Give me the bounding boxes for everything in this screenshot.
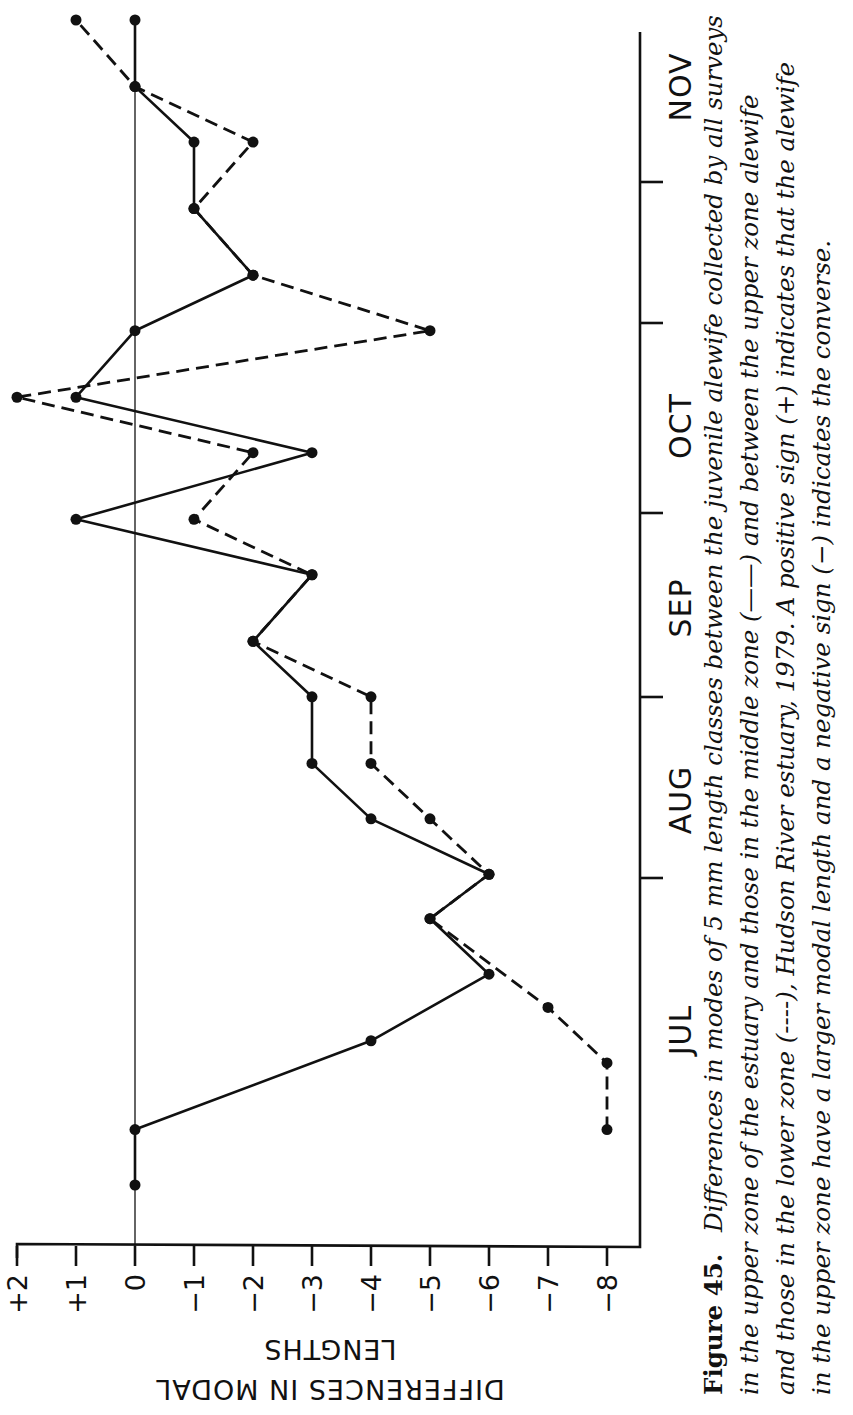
data-point <box>307 447 318 458</box>
value-axis-title-line-1: LENGTHS <box>263 1334 396 1365</box>
data-point <box>71 15 82 26</box>
caption-line-4: in the upper zone have a larger modal le… <box>807 240 836 1395</box>
figure-45: JULAUGSEPOCTNOV +2+10−1−2−3−4−5−6−7−8 LE… <box>0 0 853 1415</box>
month-label-aug: AUG <box>663 766 698 835</box>
data-point <box>189 137 200 148</box>
caption-line-3: and those in the lower zone (----), Huds… <box>771 62 800 1395</box>
value-tick-label: −1 <box>179 1274 210 1314</box>
value-axis-and-time-axis <box>17 32 640 1258</box>
month-label-oct: OCT <box>663 393 698 459</box>
month-labels: JULAUGSEPOCTNOV <box>663 52 698 1057</box>
figure-number: Figure 45. <box>699 1254 728 1395</box>
value-ticks <box>17 1246 607 1266</box>
month-ticks <box>640 182 663 878</box>
data-point <box>366 758 377 769</box>
data-point <box>366 813 377 824</box>
data-point <box>130 325 141 336</box>
data-point <box>307 691 318 702</box>
data-point <box>248 137 259 148</box>
data-point <box>248 447 259 458</box>
value-axis-title: LENGTHS DIFFERENCES IN MODAL <box>155 1334 505 1405</box>
month-label-jul: JUL <box>663 1005 698 1058</box>
data-point <box>189 514 200 525</box>
value-tick-label: −2 <box>238 1274 269 1314</box>
value-tick-label: +1 <box>61 1274 92 1314</box>
data-point <box>366 1035 377 1046</box>
value-tick-label: −5 <box>415 1274 446 1314</box>
data-point <box>12 392 23 403</box>
data-point <box>307 758 318 769</box>
data-point <box>602 1057 613 1068</box>
data-point <box>248 636 259 647</box>
data-point <box>307 569 318 580</box>
data-point <box>484 869 495 880</box>
month-label-nov: NOV <box>663 52 698 121</box>
data-point <box>425 913 436 924</box>
value-tick-label: −8 <box>592 1274 623 1314</box>
value-axis-title-line-2: DIFFERENCES IN MODAL <box>155 1374 505 1405</box>
data-point <box>71 392 82 403</box>
series-upper-vs-middle-zone <box>76 20 489 1185</box>
data-point-markers <box>12 15 613 1191</box>
value-tick-label: −3 <box>297 1274 328 1314</box>
value-tick-label: −4 <box>356 1274 387 1314</box>
caption-line-1: Figure 45. Differences in modes of 5 mm … <box>699 15 728 1395</box>
data-point <box>425 813 436 824</box>
data-point <box>602 1124 613 1135</box>
month-label-sep: SEP <box>663 578 698 637</box>
data-point <box>543 1002 554 1013</box>
data-point <box>425 325 436 336</box>
data-point <box>71 514 82 525</box>
value-tick-label: −7 <box>533 1274 564 1314</box>
data-point <box>248 270 259 281</box>
data-point <box>130 1124 141 1135</box>
value-tick-label: 0 <box>120 1274 151 1291</box>
data-point <box>189 203 200 214</box>
data-point <box>130 1180 141 1191</box>
data-point <box>484 969 495 980</box>
caption-line-2: in the upper zone of the estuary and tho… <box>735 95 764 1395</box>
plot-area <box>12 15 664 1267</box>
data-point <box>130 81 141 92</box>
caption: Figure 45. Differences in modes of 5 mm … <box>699 15 836 1395</box>
data-point <box>366 691 377 702</box>
data-point <box>130 15 141 26</box>
value-tick-label: −6 <box>474 1274 505 1314</box>
value-tick-labels: +2+10−1−2−3−4−5−6−7−8 <box>2 1274 623 1314</box>
value-tick-label: +2 <box>2 1274 33 1314</box>
